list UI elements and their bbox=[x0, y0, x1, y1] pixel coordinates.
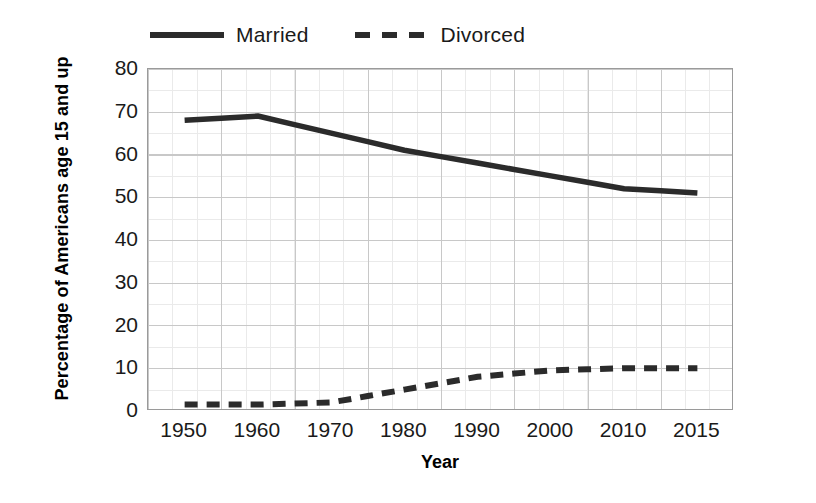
x-tick-label: 1950 bbox=[144, 418, 224, 442]
y-axis-tick-labels: 01020304050607080 bbox=[88, 0, 138, 503]
x-tick-label: 1970 bbox=[290, 418, 370, 442]
x-tick-label: 2000 bbox=[510, 418, 590, 442]
x-tick-label: 2015 bbox=[656, 418, 736, 442]
x-axis-tick-labels: 19501960197019801990200020102015 bbox=[147, 418, 733, 448]
plot-area bbox=[147, 68, 733, 410]
x-tick-label: 1990 bbox=[437, 418, 517, 442]
y-tick-label: 20 bbox=[92, 314, 138, 335]
y-tick-label: 70 bbox=[92, 100, 138, 121]
legend-item-divorced: Divorced bbox=[355, 23, 525, 47]
y-tick-label: 30 bbox=[92, 271, 138, 292]
x-tick-label: 1980 bbox=[363, 418, 443, 442]
x-tick-label: 2010 bbox=[583, 418, 663, 442]
legend-swatch-dashed-icon bbox=[355, 32, 429, 38]
y-tick-label: 60 bbox=[92, 143, 138, 164]
series-line-married bbox=[185, 116, 698, 193]
chart-legend: Married Divorced bbox=[150, 18, 570, 52]
legend-label-divorced: Divorced bbox=[441, 23, 525, 47]
y-tick-label: 40 bbox=[92, 228, 138, 249]
y-tick-label: 50 bbox=[92, 185, 138, 206]
y-axis-title: Percentage of Americans age 15 and up bbox=[52, 49, 73, 409]
legend-item-married: Married bbox=[150, 23, 309, 47]
legend-swatch-solid-icon bbox=[150, 32, 224, 38]
x-tick-label: 1960 bbox=[217, 418, 297, 442]
y-tick-label: 10 bbox=[92, 356, 138, 377]
series-line-divorced bbox=[185, 368, 698, 404]
line-chart: Married Divorced Percentage of Americans… bbox=[0, 0, 816, 503]
y-tick-label: 80 bbox=[92, 57, 138, 78]
x-axis-title: Year bbox=[147, 452, 733, 473]
series-layer bbox=[148, 69, 734, 411]
legend-label-married: Married bbox=[236, 23, 309, 47]
y-tick-label: 0 bbox=[92, 399, 138, 420]
